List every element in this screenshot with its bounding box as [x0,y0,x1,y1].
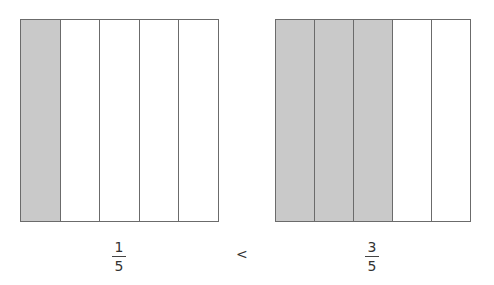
shaded-part [315,20,354,221]
fraction-right: 3 5 [357,240,387,273]
denominator: 5 [357,257,387,273]
shaded-part [354,20,393,221]
unshaded-part [432,20,470,221]
fraction-left: 1 5 [104,240,134,273]
fraction-model-right [275,19,471,222]
denominator: 5 [104,257,134,273]
shaded-part [21,20,61,221]
numerator: 1 [104,240,134,256]
shaded-part [276,20,315,221]
unshaded-part [140,20,180,221]
unshaded-part [61,20,101,221]
fraction-model-left [20,19,219,222]
unshaded-part [393,20,432,221]
numerator: 3 [357,240,387,256]
unshaded-part [100,20,140,221]
unshaded-part [179,20,218,221]
comparison-symbol: < [236,246,248,262]
